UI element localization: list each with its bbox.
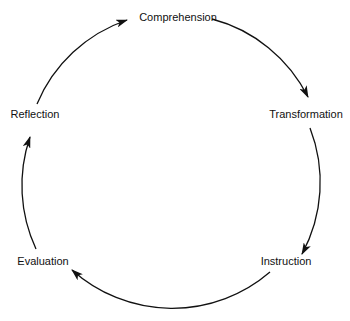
arrow-evaluation-to-reflection [22,137,36,249]
arrow-reflection-to-comprehension [37,20,127,104]
node-comprehension: Comprehension [139,11,217,23]
cycle-arrows [0,0,350,321]
node-evaluation: Evaluation [17,255,68,267]
arrow-comprehension-to-transformation [212,19,308,97]
node-reflection: Reflection [11,108,60,120]
arrow-instruction-to-evaluation [72,270,270,308]
node-transformation: Transformation [269,108,343,120]
arrow-transformation-to-instruction [302,128,320,254]
node-instruction: Instruction [261,255,312,267]
